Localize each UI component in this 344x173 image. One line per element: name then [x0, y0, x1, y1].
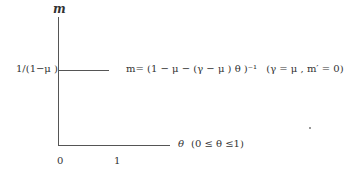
x-tick-0: 0: [57, 155, 63, 166]
y-level-label: 1/(1−μ ): [16, 63, 58, 74]
equation-label: m= (1 − μ − (γ − μ ) θ )⁻¹ (γ = μ , m′ =…: [126, 63, 344, 74]
constant-m-line: [59, 70, 109, 71]
equation-text: m= (1 − μ − (γ − μ ) θ )⁻¹: [126, 63, 257, 74]
x-axis-range-note: (0 ≤ θ ≤1): [191, 138, 244, 149]
x-axis-label: θ: [178, 138, 184, 149]
y-axis: [58, 17, 59, 146]
x-axis: [58, 145, 170, 146]
y-axis-label: m: [53, 2, 66, 16]
x-tick-1: 1: [114, 155, 120, 166]
condition-text: (γ = μ , m′ = 0): [266, 63, 343, 74]
stray-dot: [309, 127, 311, 129]
